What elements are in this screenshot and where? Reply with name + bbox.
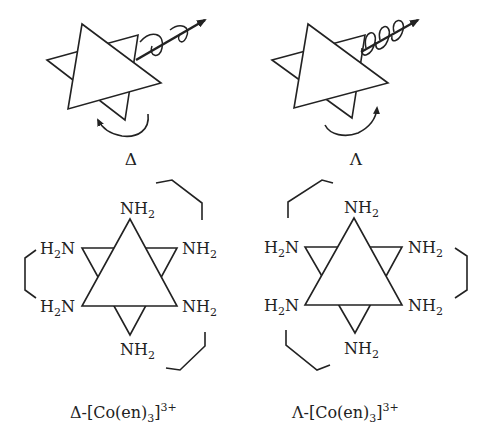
delta-complex-structure [25, 180, 205, 370]
helix-icon [362, 20, 404, 55]
ligand-nh2-lower-right: NH2 [182, 297, 217, 319]
ligand-nh2-top: NH2 [120, 199, 155, 221]
isomer-diagram: Δ Λ NH2 H2N NH2 H2N NH2 NH2 NH2 [0, 0, 484, 448]
en-chelate-bottom-left [286, 330, 330, 370]
delta-symbol: Δ [125, 149, 137, 169]
ligand-h2n-upper-left: H2N [264, 238, 299, 260]
delta-complex-caption: Δ-[Co(en)3]3+ [70, 401, 177, 425]
ligand-h2n-lower-left: H2N [40, 297, 75, 319]
helix-icon [140, 26, 188, 56]
delta-prism-figure [47, 20, 205, 136]
lambda-symbol: Λ [349, 149, 363, 169]
ligand-h2n-lower-left: H2N [264, 296, 299, 318]
en-chelate-left [25, 250, 36, 298]
en-chelate-top-right [156, 180, 202, 220]
ligand-nh2-lower-right: NH2 [408, 296, 443, 318]
ligand-nh2-upper-right: NH2 [182, 239, 217, 261]
ligand-nh2-top: NH2 [344, 198, 379, 220]
en-chelate-bottom-right [166, 332, 205, 370]
front-triangle [294, 24, 388, 108]
ligand-nh2-upper-right: NH2 [408, 238, 443, 260]
c3-axis-arrow [136, 20, 205, 60]
en-chelate-right [455, 248, 467, 298]
ligand-nh2-bottom: NH2 [120, 340, 155, 362]
en-chelate-top-left [288, 180, 333, 218]
lambda-complex-caption: Λ-[Co(en)3]3+ [291, 401, 399, 425]
ligand-nh2-bottom: NH2 [344, 339, 379, 361]
ligand-h2n-upper-left: H2N [40, 239, 75, 261]
lambda-prism-figure [272, 20, 418, 135]
